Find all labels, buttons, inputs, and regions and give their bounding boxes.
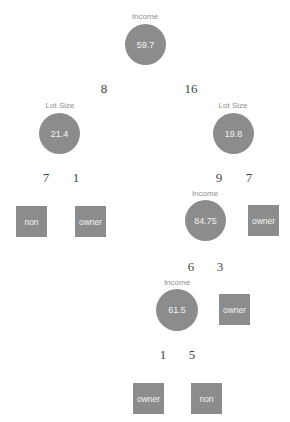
right-left-count: 9	[216, 170, 223, 186]
right-node-variable-label: Lot Size	[219, 101, 248, 110]
leaf-owner: owner	[133, 383, 164, 414]
root-variable-label: Income	[132, 12, 158, 21]
leaf-non: non	[191, 383, 222, 414]
leaf-non: non	[16, 206, 47, 237]
left-split-node: 21.4	[39, 113, 80, 154]
left-right-count: 1	[73, 170, 80, 186]
rl-right-count: 3	[217, 259, 224, 275]
right-left-variable-label: Income	[192, 189, 218, 198]
leaf-owner: owner	[219, 294, 250, 325]
root-split-node: 59.7	[125, 24, 166, 65]
rl-left-variable-label: Income	[164, 278, 190, 287]
left-branch-count: 8	[101, 81, 108, 97]
rl-left-count: 6	[188, 259, 195, 275]
leaf-owner: owner	[248, 205, 279, 236]
left-left-count: 7	[43, 170, 50, 186]
left-node-variable-label: Lot Size	[46, 101, 75, 110]
right-branch-count: 16	[185, 81, 198, 97]
leaf-owner: owner	[75, 206, 106, 237]
right-split-node: 19.8	[213, 113, 254, 154]
rll-left-count: 1	[160, 347, 167, 363]
right-left-split-node: 84.75	[185, 200, 226, 241]
rll-right-count: 5	[189, 347, 196, 363]
right-right-count: 7	[246, 170, 253, 186]
rl-left-split-node: 61.5	[156, 289, 198, 331]
